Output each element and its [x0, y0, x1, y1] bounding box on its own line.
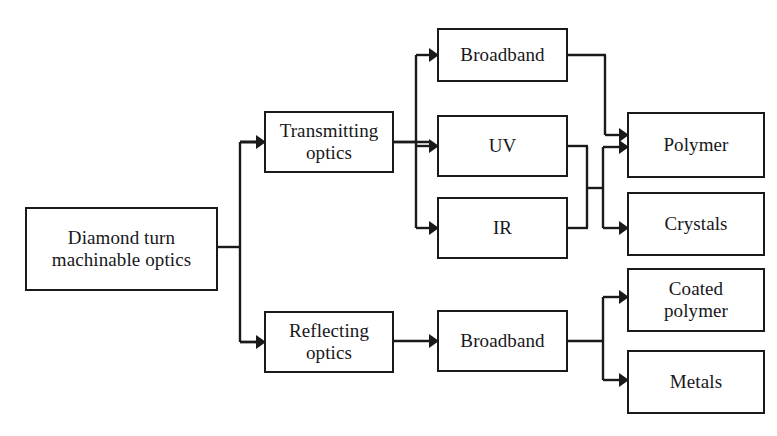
node-label: Coated polymer: [660, 278, 732, 323]
node-reflecting-optics[interactable]: Reflecting optics: [264, 311, 394, 373]
node-crystals[interactable]: Crystals: [627, 192, 765, 256]
node-label: Polymer: [659, 134, 732, 156]
node-ir[interactable]: IR: [437, 197, 568, 259]
node-label: Crystals: [660, 213, 731, 235]
node-label: Reflecting optics: [285, 320, 373, 365]
flowchart-diagram: Diamond turn machinable optics Transmitt…: [0, 0, 777, 436]
node-label: Broadband: [456, 44, 548, 66]
node-transmitting-broadband[interactable]: Broadband: [437, 28, 568, 82]
node-label: Transmitting optics: [276, 120, 383, 165]
node-coated-polymer[interactable]: Coated polymer: [627, 268, 765, 332]
node-uv[interactable]: UV: [437, 115, 568, 177]
node-label: UV: [485, 135, 521, 157]
node-polymer[interactable]: Polymer: [627, 112, 765, 178]
node-reflecting-broadband[interactable]: Broadband: [437, 310, 568, 372]
node-label: Diamond turn machinable optics: [48, 227, 195, 272]
node-label: Metals: [666, 371, 726, 393]
node-diamond-turn-machinable-optics[interactable]: Diamond turn machinable optics: [25, 207, 218, 291]
node-metals[interactable]: Metals: [627, 350, 765, 414]
node-transmitting-optics[interactable]: Transmitting optics: [264, 111, 394, 173]
node-label: Broadband: [456, 330, 548, 352]
node-label: IR: [489, 217, 516, 239]
